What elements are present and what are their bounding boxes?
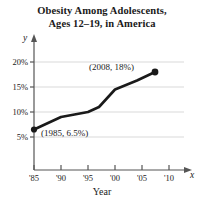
annotation-2008: (2008, 18%)	[89, 62, 134, 72]
y-tick-label-15: 15%	[0, 82, 28, 92]
x-tick-label-85: '85	[22, 173, 46, 183]
y-tick-label-5: 5%	[0, 132, 28, 142]
x-axis-symbol: x	[190, 170, 194, 180]
x-tick-label-05: '05	[130, 173, 154, 183]
data-point-marker-start	[31, 126, 37, 132]
x-tick-label-95: '95	[76, 173, 100, 183]
chart-figure: Obesity Among Adolescents, Ages 12–19, i…	[0, 0, 204, 203]
data-point-marker-end	[152, 69, 159, 76]
y-axis-symbol: y	[23, 33, 27, 43]
x-tick-label-10: '10	[157, 173, 181, 183]
annotation-1985: (1985, 6.5%)	[41, 128, 88, 138]
x-tick-label-90: '90	[49, 173, 73, 183]
y-axis	[30, 34, 37, 170]
x-axis-title: Year	[0, 186, 204, 197]
x-tick-label-00: '00	[103, 173, 127, 183]
y-tick-label-10: 10%	[0, 107, 28, 117]
gridlines	[34, 62, 184, 137]
data-series-line	[31, 69, 159, 133]
y-tick-label-20: 20%	[0, 57, 28, 67]
x-axis	[34, 165, 192, 173]
